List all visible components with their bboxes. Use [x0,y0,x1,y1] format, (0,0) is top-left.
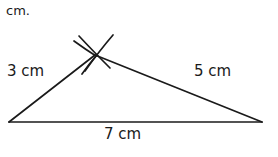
triangle-side-right [95,55,262,122]
side-label-bottom: 7 cm [104,127,141,142]
geometry-figure: cm. 3 cm 5 cm 7 cm [0,0,278,157]
unit-note: cm. [6,4,30,17]
construction-arcs [74,35,113,74]
side-label-left: 3 cm [7,64,44,79]
side-label-right: 5 cm [194,64,231,79]
